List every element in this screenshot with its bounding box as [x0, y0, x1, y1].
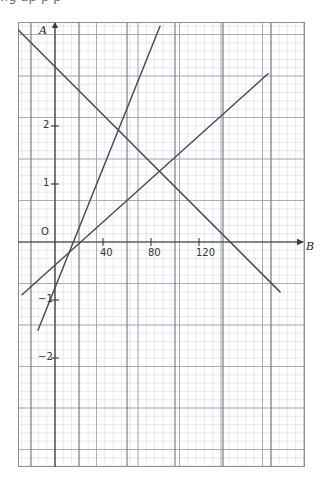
x-tick-label-40: 40 — [100, 247, 113, 258]
y-tick-label-2: 2 — [43, 119, 49, 130]
origin-label: O — [41, 226, 49, 237]
x-axis-label-B: B — [306, 240, 314, 253]
y-tick-label-1: 1 — [43, 177, 49, 188]
plot-background — [18, 22, 305, 467]
coordinate-graph — [18, 22, 305, 467]
figure-canvas: fig ap p p AB408012021O−1−2 — [0, 0, 324, 492]
x-tick-label-120: 120 — [196, 247, 215, 258]
x-tick-label-80: 80 — [148, 247, 161, 258]
cropped-caption-text: fig ap p p — [0, 0, 62, 4]
graph-plot-area — [18, 22, 305, 467]
cropped-caption-strip: fig ap p p — [0, 0, 324, 10]
y-tick-label-neg2: −2 — [38, 351, 53, 362]
y-tick-label-neg1: −1 — [38, 293, 53, 304]
y-axis-label-A: A — [39, 24, 47, 37]
